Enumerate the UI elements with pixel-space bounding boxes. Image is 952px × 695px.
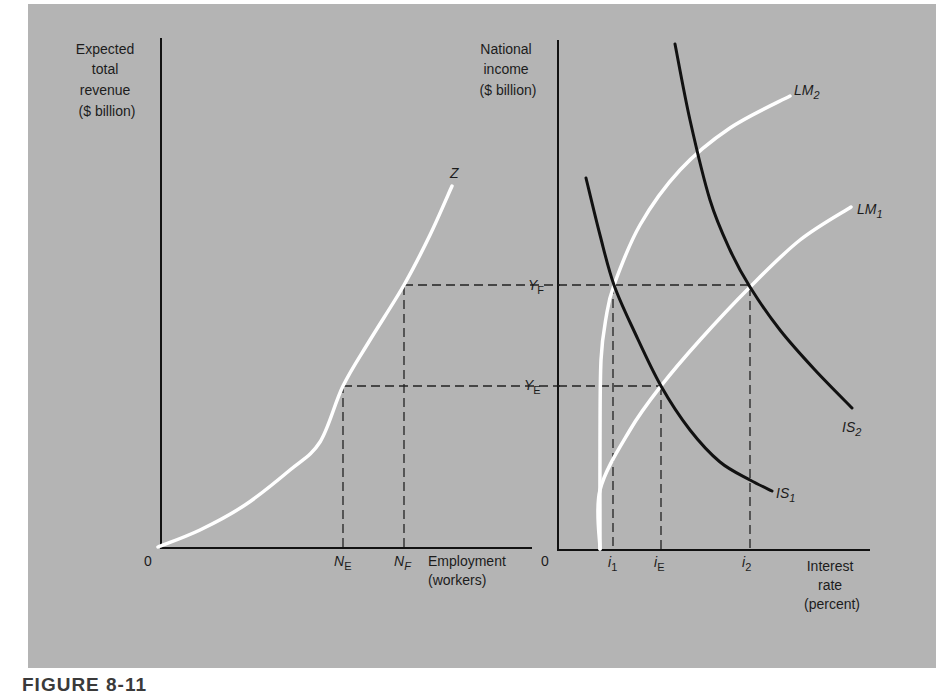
y-f-tick-label: YF <box>528 277 544 296</box>
left-ylabel: Expected total revenue ($ billion) <box>76 41 138 119</box>
left-origin-label: 0 <box>144 553 152 569</box>
i-2-tick-label: i2 <box>742 554 751 573</box>
left-xlabel: Employment (workers) <box>428 553 510 588</box>
is-2-label: IS2 <box>842 419 861 438</box>
is-1-label: IS1 <box>776 485 795 504</box>
n-e-tick-label: NE <box>334 553 351 572</box>
right-xlabel: Interest rate (percent) <box>804 558 860 612</box>
right-ref-lines <box>558 285 750 549</box>
right-chart: National income ($ billion) 0 Interest r… <box>480 40 883 612</box>
lm-1-curve <box>598 207 851 549</box>
is-2-curve <box>675 44 852 408</box>
is-1-curve <box>586 178 772 491</box>
i-e-tick-label: iE <box>654 554 664 573</box>
z-curve <box>158 186 452 547</box>
i-1-tick-label: i1 <box>608 554 617 573</box>
lm-2-label: LM2 <box>794 82 820 101</box>
is-lm-curves <box>586 44 852 549</box>
figure-caption: FIGURE 8-11 <box>22 674 147 695</box>
right-origin-label: 0 <box>541 553 549 569</box>
right-ylabel: National income ($ billion) <box>480 41 537 98</box>
figure-chart: Expected total revenue ($ billion) 0 Emp… <box>0 0 952 695</box>
n-f-tick-label: NF <box>394 553 412 572</box>
left-chart: Expected total revenue ($ billion) 0 Emp… <box>76 38 560 588</box>
left-ref-lines <box>343 285 560 547</box>
y-e-tick-label: YE <box>524 377 541 396</box>
lm-1-label: LM1 <box>857 201 883 220</box>
z-curve-label: Z <box>449 165 459 181</box>
